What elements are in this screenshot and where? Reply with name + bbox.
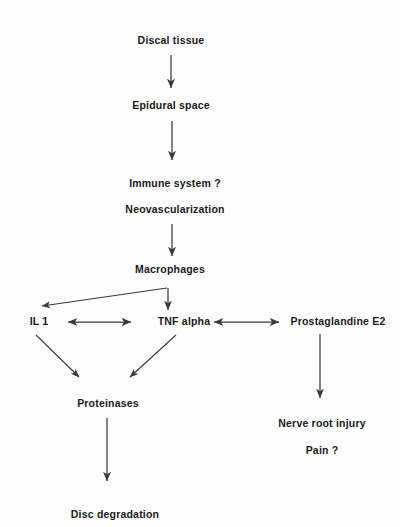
node-discal-tissue: Discal tissue bbox=[138, 35, 205, 47]
node-tnf-alpha: TNF alpha bbox=[158, 316, 211, 328]
node-proteinases: Proteinases bbox=[77, 398, 139, 410]
node-nerve-root-injury: Nerve root injury bbox=[278, 418, 365, 430]
node-disc-degradation: Disc degradation bbox=[71, 509, 159, 521]
edge-macrophages-to-il1 bbox=[42, 288, 167, 306]
node-il1: IL 1 bbox=[30, 316, 49, 328]
node-pain: Pain ? bbox=[306, 445, 339, 457]
node-neovascularization: Neovascularization bbox=[125, 204, 224, 216]
node-prostaglandine-e2: Prostaglandine E2 bbox=[290, 316, 385, 328]
edge-tnf-alpha-to-proteinases bbox=[130, 335, 176, 377]
flowchart-diagram: Discal tissue Epidural space Immune syst… bbox=[0, 0, 400, 527]
node-macrophages: Macrophages bbox=[135, 264, 205, 276]
node-immune-system: Immune system ? bbox=[129, 178, 221, 190]
node-epidural-space: Epidural space bbox=[132, 100, 210, 112]
edge-il1-to-proteinases bbox=[36, 335, 79, 377]
